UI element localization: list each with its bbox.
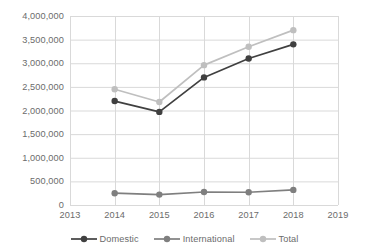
x-axis-tick-label: 2015	[149, 210, 170, 220]
x-axis-tick-label: 2017	[238, 210, 259, 220]
x-axis-tick-label: 2019	[328, 210, 349, 220]
line-chart: 4,000,0003,500,0003,000,0002,500,0002,00…	[0, 0, 369, 250]
x-axis-tick-label: 2016	[194, 210, 215, 220]
legend-label: Domestic	[100, 234, 139, 244]
x-axis-tick-label: 2014	[104, 210, 125, 220]
legend-item-total[interactable]: Total	[250, 234, 299, 244]
legend-item-international[interactable]: International	[154, 234, 235, 244]
x-axis: 2013201420152016201720182019	[0, 0, 369, 250]
legend-label: Total	[279, 234, 299, 244]
x-axis-tick-label: 2018	[283, 210, 304, 220]
legend-item-domestic[interactable]: Domestic	[71, 234, 139, 244]
legend-marker-icon	[71, 234, 97, 244]
legend-label: International	[183, 234, 235, 244]
legend-marker-icon	[250, 234, 276, 244]
chart-legend: DomesticInternationalTotal	[0, 234, 369, 244]
x-axis-tick-label: 2013	[60, 210, 81, 220]
legend-marker-icon	[154, 234, 180, 244]
